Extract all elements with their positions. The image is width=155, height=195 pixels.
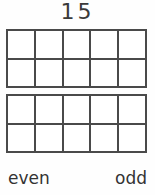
frame-cell[interactable] [36,96,64,125]
frame-cell[interactable] [8,125,36,154]
frame-cell[interactable] [64,60,92,89]
frame-cell[interactable] [8,96,36,125]
frame-cell[interactable] [8,31,36,60]
ten-frame-top[interactable] [6,29,147,88]
frame-cell[interactable] [64,125,92,154]
answer-options: even odd [0,163,155,193]
frame-cell[interactable] [91,31,119,60]
page-title: 15 [0,0,155,26]
frame-cell[interactable] [119,96,147,125]
answer-option-even[interactable]: even [8,166,50,190]
frame-cell[interactable] [64,31,92,60]
frame-cell[interactable] [119,60,147,89]
frame-cell[interactable] [119,125,147,154]
frame-cell[interactable] [8,60,36,89]
answer-option-odd[interactable]: odd [115,166,147,190]
ten-frame-bottom[interactable] [6,94,147,153]
frame-cell[interactable] [91,125,119,154]
frame-cell[interactable] [36,60,64,89]
frame-cell[interactable] [91,60,119,89]
worksheet-canvas: 15 even odd [0,0,155,195]
frame-cell[interactable] [36,31,64,60]
frame-cell[interactable] [119,31,147,60]
frame-cell[interactable] [91,96,119,125]
frame-cell[interactable] [64,96,92,125]
frame-cell[interactable] [36,125,64,154]
